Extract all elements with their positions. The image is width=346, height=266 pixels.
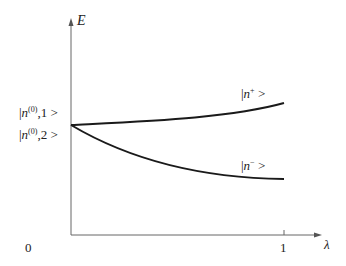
state-label-n0-1: |n(0),1 >	[19, 106, 58, 119]
ket-suffix: >	[255, 86, 266, 101]
degenerate-perturbation-diagram: E λ 0 1 |n(0),1 > |n(0),2 > |n+ > |n− >	[0, 0, 346, 266]
upper-branch-curve	[71, 103, 284, 125]
x-tick-label-1: 1	[280, 241, 287, 254]
y-axis-label: E	[77, 14, 86, 28]
state-label-n0-2: |n(0),2 >	[19, 128, 58, 141]
x-axis-arrow-icon	[314, 233, 322, 238]
ket-suffix: >	[255, 158, 266, 173]
x-tick-label-0: 0	[25, 241, 32, 254]
y-axis-arrow-icon	[69, 18, 74, 26]
state-label-n-plus: |n+ >	[241, 87, 265, 100]
state-label-n-minus: |n− >	[241, 159, 265, 172]
x-axis-label: λ	[324, 238, 330, 251]
ket-suffix: ,2 >	[37, 127, 57, 142]
ket-suffix: ,1 >	[37, 105, 57, 120]
